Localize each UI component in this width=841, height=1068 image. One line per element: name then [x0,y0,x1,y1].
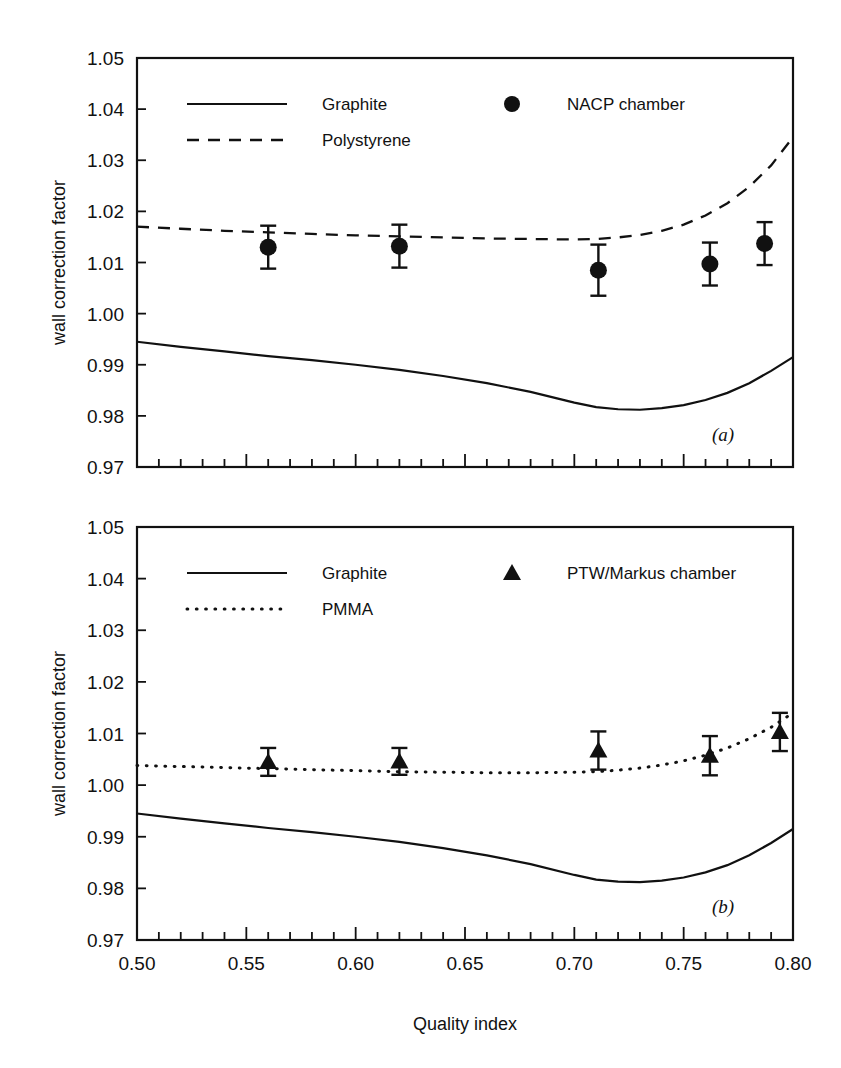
panel-label: (a) [712,424,734,446]
data-point-circle [701,243,718,286]
y-tick-label: 0.99 [87,827,124,848]
data-point-triangle [589,731,607,769]
y-tick-label: 1.05 [87,517,124,538]
y-tick-label: 1.01 [87,253,124,274]
marker-circle [260,239,277,256]
panel-a: 0.970.980.991.001.011.021.031.041.05wall… [49,48,793,478]
y-tick-label: 1.02 [87,201,124,222]
marker-triangle [771,723,789,739]
x-tick-label: 0.60 [337,953,374,974]
y-tick-label: 1.03 [87,620,124,641]
legend-label-chamber: PTW/Markus chamber [567,564,736,583]
data-point-circle [391,225,408,268]
x-tick-label: 0.80 [775,953,812,974]
y-tick-label: 1.03 [87,150,124,171]
data-point-triangle [771,713,789,751]
chart-svg: 0.970.980.991.001.011.021.031.041.05wall… [0,0,841,1068]
x-tick-label: 0.55 [228,953,265,974]
series-line-polystyrene [137,137,793,239]
x-tick-label: 0.50 [119,953,156,974]
x-tick-label: 0.70 [556,953,593,974]
marker-triangle [390,752,408,768]
x-tick-label: 0.65 [447,953,484,974]
legend-label-graphite: Graphite [322,95,387,114]
legend-label-graphite: Graphite [322,564,387,583]
series-line-pmma [137,713,793,773]
series-line-graphite [137,342,793,410]
y-tick-label: 0.97 [87,457,124,478]
marker-triangle [589,742,607,758]
series-line-graphite [137,814,793,883]
y-tick-label: 0.97 [87,930,124,951]
marker-triangle [259,753,277,769]
legend-label-chamber: NACP chamber [567,95,685,114]
legend-marker-triangle [503,564,521,580]
panel-label: (b) [712,896,734,918]
marker-circle [756,235,773,252]
data-point-triangle [259,748,277,776]
y-tick-label: 1.00 [87,304,124,325]
y-axis-title: wall correction factor [49,180,69,346]
data-point-circle [756,222,773,265]
plot-frame [137,527,793,940]
marker-circle [391,238,408,255]
y-tick-label: 1.02 [87,672,124,693]
y-axis-title: wall correction factor [49,651,69,817]
data-point-circle [590,245,607,296]
x-tick-label: 0.75 [665,953,702,974]
y-tick-label: 1.05 [87,48,124,69]
y-tick-label: 1.04 [87,99,124,120]
marker-circle [701,256,718,273]
y-tick-label: 0.98 [87,878,124,899]
x-axis-title: Quality index [413,1014,517,1034]
y-tick-label: 1.04 [87,569,124,590]
panel-b: 0.970.980.991.001.011.021.031.041.050.50… [49,517,811,974]
y-tick-label: 1.00 [87,775,124,796]
legend-marker-circle [504,96,520,112]
y-tick-label: 0.99 [87,355,124,376]
legend-label-polystyrene: Polystyrene [322,131,411,150]
marker-circle [590,262,607,279]
y-tick-label: 0.98 [87,406,124,427]
plot-frame [137,58,793,467]
y-tick-label: 1.01 [87,724,124,745]
legend-label-pmma: PMMA [322,600,374,619]
figure-container: 0.970.980.991.001.011.021.031.041.05wall… [0,0,841,1068]
